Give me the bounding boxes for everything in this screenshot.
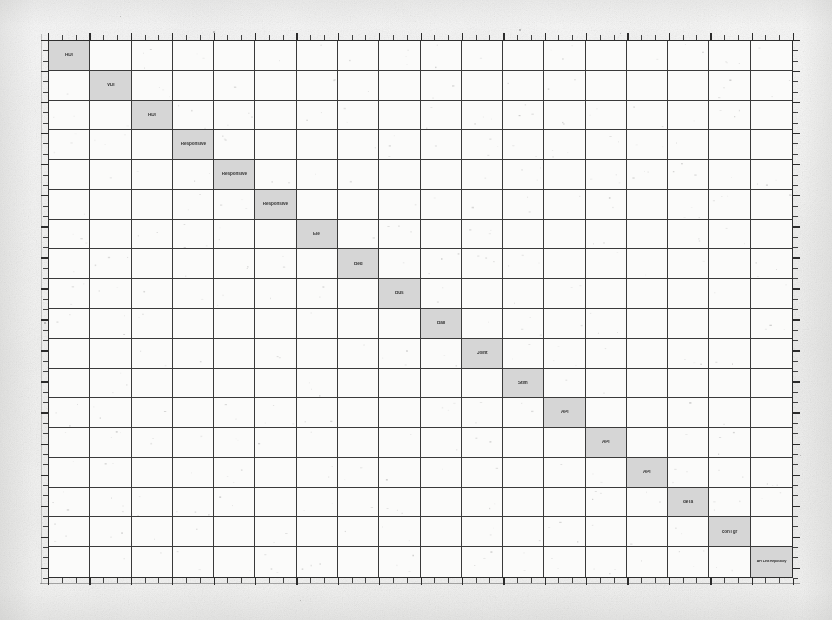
matrix-cell[interactable] <box>379 458 420 488</box>
matrix-cell[interactable] <box>338 41 379 71</box>
matrix-cell[interactable] <box>462 369 503 399</box>
matrix-cell[interactable] <box>503 190 544 220</box>
matrix-cell[interactable] <box>751 369 792 399</box>
matrix-diagonal-cell[interactable]: Bus <box>379 279 420 309</box>
matrix-cell[interactable] <box>255 398 296 428</box>
matrix-cell[interactable] <box>503 547 544 577</box>
matrix-cell[interactable] <box>214 220 255 250</box>
matrix-cell[interactable] <box>214 41 255 71</box>
matrix-cell[interactable] <box>544 130 585 160</box>
matrix-cell[interactable] <box>379 101 420 131</box>
matrix-cell[interactable] <box>49 190 90 220</box>
matrix-cell[interactable] <box>421 279 462 309</box>
matrix-cell[interactable] <box>49 160 90 190</box>
matrix-cell[interactable] <box>751 190 792 220</box>
matrix-cell[interactable] <box>627 428 668 458</box>
matrix-cell[interactable] <box>544 249 585 279</box>
matrix-cell[interactable] <box>255 220 296 250</box>
matrix-cell[interactable] <box>214 279 255 309</box>
matrix-cell[interactable] <box>668 339 709 369</box>
matrix-cell[interactable] <box>297 130 338 160</box>
matrix-diagonal-cell[interactable]: deTa <box>668 488 709 518</box>
matrix-cell[interactable] <box>379 190 420 220</box>
matrix-cell[interactable] <box>668 398 709 428</box>
matrix-diagonal-cell[interactable]: Responsive <box>214 160 255 190</box>
matrix-cell[interactable] <box>90 249 131 279</box>
matrix-cell[interactable] <box>544 517 585 547</box>
matrix-cell[interactable] <box>214 488 255 518</box>
matrix-cell[interactable] <box>544 339 585 369</box>
matrix-cell[interactable] <box>173 517 214 547</box>
matrix-cell[interactable] <box>49 101 90 131</box>
matrix-cell[interactable] <box>132 547 173 577</box>
matrix-cell[interactable] <box>627 220 668 250</box>
matrix-cell[interactable] <box>297 160 338 190</box>
matrix-cell[interactable] <box>173 547 214 577</box>
matrix-cell[interactable] <box>214 369 255 399</box>
matrix-cell[interactable] <box>421 488 462 518</box>
matrix-cell[interactable] <box>338 309 379 339</box>
matrix-cell[interactable] <box>421 398 462 428</box>
matrix-cell[interactable] <box>751 458 792 488</box>
matrix-cell[interactable] <box>338 517 379 547</box>
matrix-cell[interactable] <box>132 488 173 518</box>
matrix-cell[interactable] <box>338 71 379 101</box>
matrix-cell[interactable] <box>255 547 296 577</box>
matrix-diagonal-cell[interactable]: Bed <box>338 249 379 279</box>
matrix-cell[interactable] <box>503 339 544 369</box>
matrix-cell[interactable] <box>214 517 255 547</box>
matrix-cell[interactable] <box>462 398 503 428</box>
matrix-cell[interactable] <box>255 517 296 547</box>
matrix-cell[interactable] <box>90 428 131 458</box>
matrix-cell[interactable] <box>379 369 420 399</box>
matrix-cell[interactable] <box>668 458 709 488</box>
matrix-cell[interactable] <box>709 279 750 309</box>
matrix-cell[interactable] <box>709 428 750 458</box>
matrix-cell[interactable] <box>214 249 255 279</box>
matrix-cell[interactable] <box>586 547 627 577</box>
matrix-cell[interactable] <box>586 398 627 428</box>
matrix-cell[interactable] <box>338 130 379 160</box>
matrix-diagonal-cell[interactable]: Ele <box>297 220 338 250</box>
matrix-cell[interactable] <box>132 428 173 458</box>
matrix-cell[interactable] <box>709 101 750 131</box>
matrix-cell[interactable] <box>544 41 585 71</box>
matrix-cell[interactable] <box>668 428 709 458</box>
matrix-cell[interactable] <box>132 190 173 220</box>
matrix-cell[interactable] <box>255 41 296 71</box>
matrix-cell[interactable] <box>173 369 214 399</box>
matrix-cell[interactable] <box>214 101 255 131</box>
matrix-cell[interactable] <box>421 130 462 160</box>
matrix-cell[interactable] <box>338 488 379 518</box>
matrix-cell[interactable] <box>379 71 420 101</box>
matrix-cell[interactable] <box>503 160 544 190</box>
matrix-cell[interactable] <box>586 309 627 339</box>
matrix-cell[interactable] <box>586 160 627 190</box>
matrix-cell[interactable] <box>297 398 338 428</box>
matrix-cell[interactable] <box>338 547 379 577</box>
matrix-cell[interactable] <box>255 369 296 399</box>
matrix-cell[interactable] <box>173 428 214 458</box>
matrix-cell[interactable] <box>173 458 214 488</box>
matrix-cell[interactable] <box>462 428 503 458</box>
matrix-cell[interactable] <box>421 190 462 220</box>
matrix-cell[interactable] <box>132 220 173 250</box>
matrix-cell[interactable] <box>421 71 462 101</box>
matrix-cell[interactable] <box>173 249 214 279</box>
matrix-cell[interactable] <box>627 130 668 160</box>
matrix-cell[interactable] <box>586 41 627 71</box>
matrix-cell[interactable] <box>462 130 503 160</box>
matrix-diagonal-cell[interactable]: API Link Repository <box>751 547 792 577</box>
matrix-cell[interactable] <box>668 190 709 220</box>
matrix-cell[interactable] <box>132 458 173 488</box>
matrix-cell[interactable] <box>709 309 750 339</box>
matrix-cell[interactable] <box>668 220 709 250</box>
matrix-cell[interactable] <box>709 190 750 220</box>
matrix-cell[interactable] <box>586 279 627 309</box>
matrix-cell[interactable] <box>421 160 462 190</box>
matrix-cell[interactable] <box>338 190 379 220</box>
matrix-cell[interactable] <box>90 279 131 309</box>
matrix-cell[interactable] <box>379 41 420 71</box>
matrix-cell[interactable] <box>586 517 627 547</box>
matrix-cell[interactable] <box>421 458 462 488</box>
